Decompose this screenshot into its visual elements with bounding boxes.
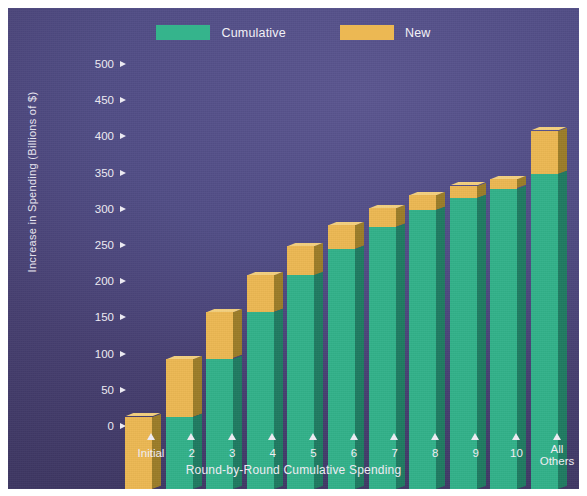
x-axis-title: Round-by-Round Cumulative Spending — [8, 463, 579, 477]
bar-8[interactable] — [409, 195, 436, 489]
x-axis-tick-arrow-icon — [147, 433, 155, 440]
bar-segment-new — [490, 179, 517, 188]
legend-label-new: New — [405, 26, 431, 40]
x-axis-tick-arrow-icon — [512, 433, 520, 440]
x-axis-tick-arrow-icon — [228, 433, 236, 440]
x-axis-tick-arrow-icon — [471, 433, 479, 440]
legend-label-cumulative: Cumulative — [221, 26, 286, 40]
chart-legend: Cumulative New — [8, 25, 579, 40]
legend-swatch-icon-cumulative — [156, 25, 210, 40]
bar-front-face — [490, 179, 517, 489]
x-axis-tick-arrow-icon — [309, 433, 317, 440]
legend-item-new[interactable]: New — [340, 25, 431, 40]
bar-side-face-cumulative — [558, 171, 567, 489]
x-axis-tick-arrow-icon — [187, 433, 195, 440]
plot-area — [8, 8, 579, 489]
bar-side-face-new — [314, 242, 323, 275]
bar-segment-new — [531, 131, 558, 174]
bar-segment-new — [409, 195, 436, 210]
bar-side-face-new — [558, 127, 567, 174]
bar-side-face-new — [233, 309, 242, 359]
bar-side-face-new — [193, 355, 202, 416]
chart-panel: Cumulative New Increase in Spending (Bil… — [8, 8, 579, 489]
x-axis-tick-arrow-icon — [431, 433, 439, 440]
bar-side-face-cumulative — [477, 195, 486, 489]
bar-segment-new — [328, 225, 355, 249]
x-axis-tick-label-line: All — [533, 443, 579, 455]
bar-9[interactable] — [450, 186, 477, 489]
bar-front-face — [450, 186, 477, 489]
bar-segment-new — [247, 275, 274, 312]
bar-side-face-new — [355, 221, 364, 248]
chart-figure: Cumulative New Increase in Spending (Bil… — [0, 0, 587, 496]
x-axis-tick-arrow-icon — [553, 433, 561, 440]
legend-item-cumulative[interactable]: Cumulative — [156, 25, 286, 40]
x-axis-tick-arrow-icon — [268, 433, 276, 440]
bar-segment-cumulative — [531, 174, 558, 489]
bar-segment-new — [450, 186, 477, 198]
legend-swatch-icon-new — [340, 25, 394, 40]
bar-segment-cumulative — [490, 189, 517, 489]
bar-segment-new — [166, 359, 193, 417]
x-axis-tick-arrow-icon — [350, 433, 358, 440]
bar-side-face-cumulative — [274, 309, 283, 489]
bar-segment-new — [206, 312, 233, 358]
bar-10[interactable] — [490, 179, 517, 489]
bar-segment-cumulative — [450, 198, 477, 489]
bar-side-face-cumulative — [517, 185, 526, 489]
x-axis-tick-arrow-icon — [390, 433, 398, 440]
bar-segment-new — [369, 208, 396, 227]
bar-front-face — [409, 195, 436, 489]
bar-side-face-new — [274, 272, 283, 312]
bar-segment-new — [287, 246, 314, 276]
